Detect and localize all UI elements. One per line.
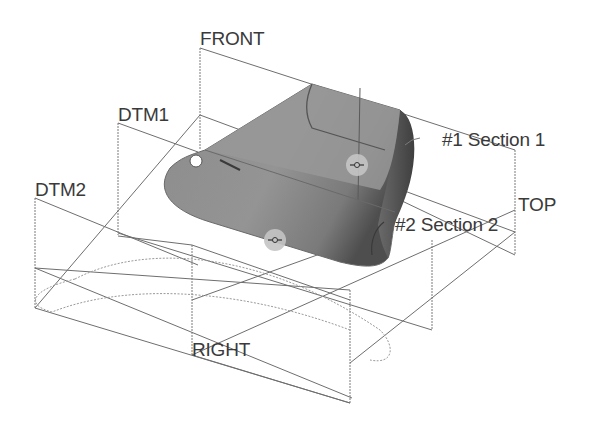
cad-viewport[interactable]: FRONT DTM1 DTM2 TOP RIGHT #1 Section 1 #…	[0, 0, 603, 421]
model-graphics	[0, 0, 603, 421]
section-label-1[interactable]: #1 Section 1	[442, 130, 545, 149]
datum-label-top[interactable]: TOP	[518, 195, 556, 214]
datum-label-right[interactable]: RIGHT	[192, 340, 250, 359]
datum-label-dtm2[interactable]: DTM2	[35, 180, 86, 199]
drag-handle-icon[interactable]	[346, 154, 368, 176]
swept-blend-solid[interactable]	[164, 84, 414, 266]
drag-handle-icon[interactable]	[264, 229, 286, 251]
section-label-2[interactable]: #2 Section 2	[395, 215, 498, 234]
datum-label-dtm1[interactable]: DTM1	[118, 105, 169, 124]
datum-plane-right[interactable]	[192, 245, 350, 403]
datum-label-front[interactable]: FRONT	[200, 29, 264, 48]
start-point-icon[interactable]	[190, 155, 202, 167]
